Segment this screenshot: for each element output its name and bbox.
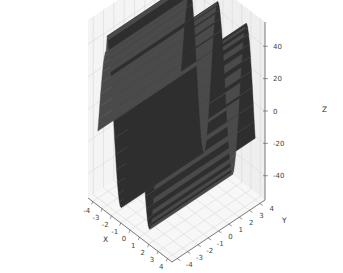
y-tick [208, 238, 211, 240]
y-tick-label: -1 [217, 240, 224, 248]
x-tick-label: -3 [93, 214, 100, 222]
y-tick-label: 0 [228, 233, 232, 241]
x-tick [148, 244, 149, 247]
y-tick-label: 1 [239, 226, 243, 234]
x-tick-label: 0 [122, 235, 126, 243]
z-tick-label: -20 [273, 140, 284, 148]
z-tick-label: -40 [273, 172, 284, 180]
x-axis-label: X [103, 235, 108, 244]
y-tick [219, 231, 222, 233]
x-tick [92, 202, 93, 205]
x-tick-label: -1 [111, 228, 118, 236]
y-tick-label: -2 [206, 247, 213, 255]
z-tick-label: 0 [273, 108, 277, 116]
y-axis-label: Y [281, 216, 287, 225]
y-tick [260, 203, 263, 205]
x-tick-label: 4 [159, 263, 164, 271]
y-tick [198, 245, 201, 247]
y-tick [177, 259, 180, 261]
y-tick-label: -4 [186, 261, 194, 269]
z-axis-label: Z [322, 105, 327, 114]
z-tick-label: 40 [273, 43, 282, 51]
x-tick [129, 230, 130, 233]
x-tick-label: 3 [150, 256, 154, 264]
x-tick-label: 2 [140, 249, 144, 257]
y-tick [239, 217, 242, 219]
y-tick-label: 2 [249, 219, 253, 227]
y-tick [188, 252, 191, 254]
y-tick [229, 224, 232, 226]
z-tick-labels: -40-2002040 [263, 43, 284, 180]
x-tick-label: 1 [131, 242, 135, 250]
y-tick [250, 210, 253, 212]
x-tick [110, 216, 111, 219]
y-tick-label: -3 [196, 254, 203, 262]
y-tick-label: 4 [270, 205, 275, 213]
x-tick [166, 258, 167, 261]
x-tick [120, 223, 121, 226]
x-tick [157, 251, 158, 254]
surface-plot: -4-3-2-101234 -4-3-2-101234 -40-2002040 … [0, 0, 343, 273]
x-tick [101, 209, 102, 212]
y-tick-label: 3 [259, 212, 263, 220]
x-tick [138, 237, 139, 240]
x-tick-label: -4 [83, 207, 91, 215]
z-tick-label: 20 [273, 75, 282, 83]
x-tick-label: -2 [102, 221, 109, 229]
